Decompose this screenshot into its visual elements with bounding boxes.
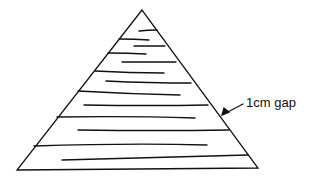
arrow-icon — [222, 104, 243, 115]
fill-lines — [34, 30, 248, 160]
gap-label: 1cm gap — [246, 95, 296, 110]
pyramid-diagram — [0, 0, 312, 183]
